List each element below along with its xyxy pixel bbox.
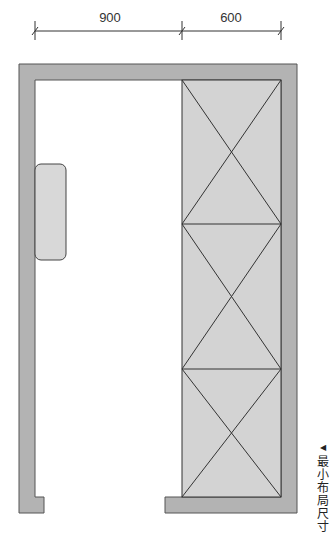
dimension-600: 600 xyxy=(211,10,251,25)
caption-marker-icon: ◀ xyxy=(315,441,331,454)
floor-plan xyxy=(0,0,334,545)
caption-text: 最小布局尺寸 xyxy=(317,455,329,534)
wall-fixture xyxy=(35,164,66,260)
dimension-900: 900 xyxy=(90,10,130,25)
caption: ◀ 最小布局尺寸 xyxy=(315,441,331,534)
wardrobe-cabinet xyxy=(182,80,281,497)
